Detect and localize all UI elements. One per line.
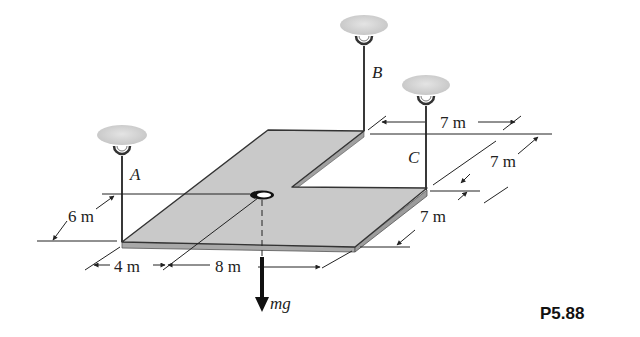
plate-diagram: A B C mg 6 m 4 m 8 m 7 m 7 m 7 m P5.88 bbox=[0, 0, 640, 337]
dim-front-b: 8 m bbox=[215, 257, 241, 276]
force-label-mg: mg bbox=[270, 294, 291, 313]
support-label-b: B bbox=[372, 63, 383, 82]
dim-front-a: 4 m bbox=[114, 257, 140, 276]
dim-right-lower: 7 m bbox=[420, 207, 446, 226]
weight-force-arrow bbox=[255, 257, 269, 312]
ceiling-anchor-a bbox=[97, 125, 147, 154]
ceiling-anchor-b bbox=[340, 15, 388, 44]
dim-right-upper: 7 m bbox=[490, 152, 516, 171]
support-label-a: A bbox=[129, 165, 141, 184]
ceiling-anchor-c bbox=[402, 75, 450, 104]
support-label-c: C bbox=[408, 148, 420, 167]
problem-id: P5.88 bbox=[540, 304, 584, 323]
dim-left-depth: 6 m bbox=[68, 207, 94, 226]
center-of-mass-marker bbox=[250, 191, 274, 200]
dim-top-width: 7 m bbox=[440, 113, 466, 132]
